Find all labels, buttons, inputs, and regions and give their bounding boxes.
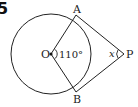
- angle-label-110: 110°: [59, 49, 83, 60]
- tangent-diagram: 5 A B O P 110° x: [0, 0, 138, 107]
- problem-number: 5: [0, 0, 8, 18]
- tangent-PA: [76, 15, 124, 54]
- tangent-PB: [76, 54, 124, 92]
- angle-label-x: x: [109, 48, 115, 59]
- angle-arc-O: [55, 49, 58, 59]
- label-P: P: [126, 48, 134, 61]
- label-B: B: [73, 93, 81, 106]
- label-A: A: [72, 3, 82, 16]
- label-O: O: [41, 48, 50, 61]
- angle-arc-P: [117, 50, 118, 58]
